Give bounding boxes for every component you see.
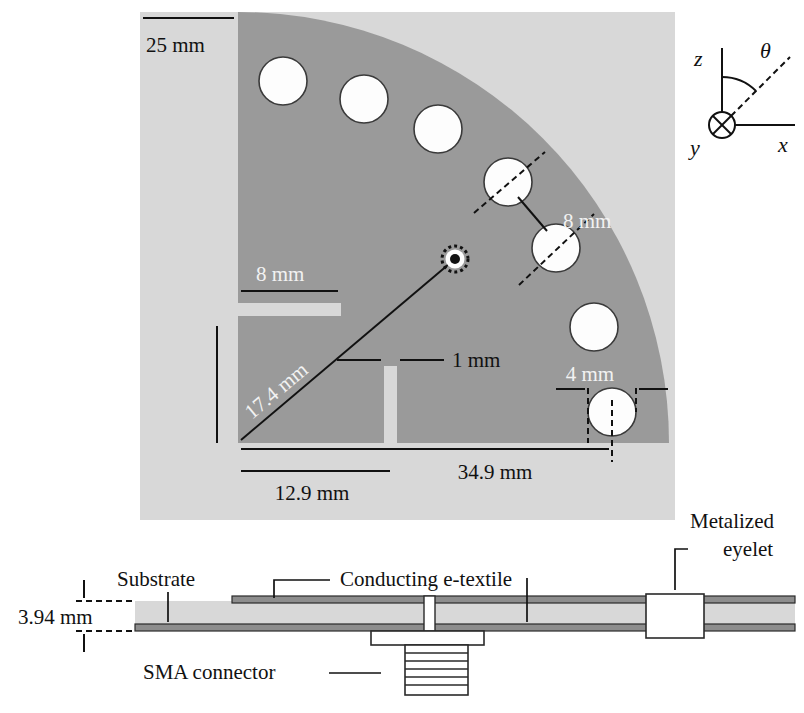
theta-label: θ <box>760 38 771 63</box>
coordinate-system: z θ y x <box>688 38 795 160</box>
horizontal-slot <box>238 303 341 316</box>
substrate-label: Substrate <box>117 567 195 591</box>
sma-connector-label: SMA connector <box>143 660 275 684</box>
eyelet <box>414 105 462 153</box>
z-axis-label: z <box>693 46 703 71</box>
thickness-label: 3.94 mm <box>18 605 93 629</box>
vertical-slot <box>384 366 397 443</box>
metalized-eyelet-leader <box>675 549 688 590</box>
theta-arc <box>722 77 756 91</box>
sma-flange <box>371 631 484 645</box>
margin-label: 25 mm <box>146 33 205 57</box>
feed-point-pin <box>450 254 460 264</box>
radius-label: 34.9 mm <box>458 460 533 484</box>
slot-width-label: 1 mm <box>452 348 500 372</box>
y-axis-label: y <box>688 135 700 160</box>
x-axis-label: x <box>777 132 788 157</box>
eyelet-diameter-label: 4 mm <box>566 362 614 386</box>
eyelet <box>259 57 307 105</box>
figure-canvas: 8 mm 25 mm 8 mm 17.4 mm 1 mm 4 mm 34. <box>0 0 804 713</box>
eyelet-spacing-label: 8 mm <box>563 209 611 233</box>
side-radiator-layer <box>232 596 795 603</box>
metalized-eyelet-label-line2: eyelet <box>723 537 773 561</box>
theta-ray <box>731 57 790 116</box>
slot-length-label: 8 mm <box>256 262 304 286</box>
eyelet <box>570 303 618 351</box>
sma-connector <box>371 631 484 695</box>
side-feed-probe <box>424 596 435 631</box>
conducting-etextile-label: Conducting e-textile <box>340 567 512 591</box>
side-metalized-eyelet <box>646 594 704 638</box>
feed-x-label: 12.9 mm <box>275 481 350 505</box>
eyelet <box>340 75 388 123</box>
antenna-geometry-figure: 8 mm 25 mm 8 mm 17.4 mm 1 mm 4 mm 34. <box>0 0 804 713</box>
metalized-eyelet-label-line1: Metalized <box>690 509 774 533</box>
conducting-etextile-leader-top <box>274 580 330 598</box>
